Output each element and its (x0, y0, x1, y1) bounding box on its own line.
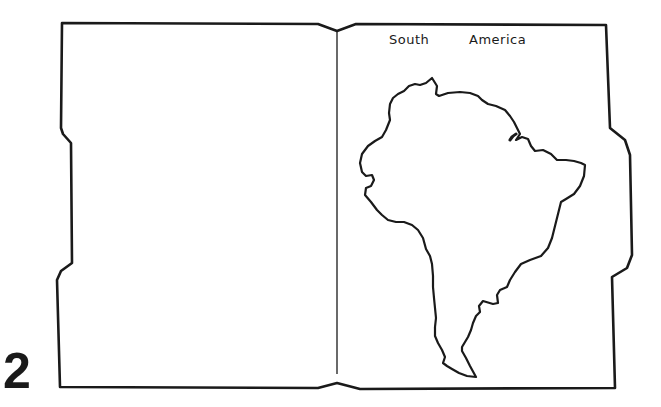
map-title-america: America (469, 32, 526, 47)
south-america-outline (360, 78, 585, 377)
map-title-south: South (389, 32, 429, 47)
river-mouth-mark (510, 134, 516, 140)
folder-outline (57, 23, 632, 389)
folder-map-canvas (0, 0, 661, 407)
page-number: 2 (3, 346, 31, 396)
